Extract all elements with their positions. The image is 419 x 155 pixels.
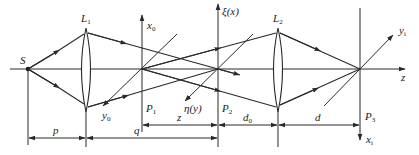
label-plane-p1: P1 [145, 102, 157, 116]
label-eta-axis: η(y) [184, 102, 202, 115]
label-dim-z: z [176, 111, 182, 123]
optical-diagram: S L1 L2 x0 y0 ξ(x) η(y) P1 P2 P3 yi xi z… [0, 0, 419, 155]
label-source: S [20, 54, 26, 66]
point-source [26, 67, 30, 145]
label-xi-axis: ξ(x) [222, 5, 239, 18]
label-y0-axis: y0 [101, 109, 111, 123]
label-lens1: L1 [80, 12, 91, 26]
lens-l1 [82, 28, 91, 147]
label-z-axis: z [400, 71, 406, 83]
plane-p3 [324, 8, 393, 140]
lens-l2 [274, 28, 283, 147]
label-yi-axis: yi [398, 24, 406, 38]
rays-p1-to-lens2 [142, 33, 276, 107]
label-dim-p: p [52, 124, 59, 136]
label-dim-d: d [315, 111, 321, 123]
label-plane-p2: P2 [221, 102, 233, 116]
label-lens2: L2 [272, 12, 283, 26]
label-plane-p3: P3 [364, 110, 376, 124]
label-dim-q: q [134, 124, 140, 136]
y0-axis [103, 34, 177, 106]
label-xi-out-axis: xi [365, 133, 373, 147]
label-x0-axis: x0 [146, 19, 156, 33]
rays-lens1-to-p2 [88, 33, 240, 107]
label-dim-d0: d0 [243, 111, 253, 125]
